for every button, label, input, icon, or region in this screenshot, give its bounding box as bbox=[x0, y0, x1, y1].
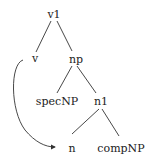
node-n: n bbox=[68, 143, 75, 154]
node-np: np bbox=[69, 54, 83, 65]
node-n1: n1 bbox=[94, 96, 108, 107]
edge-n1-compnp bbox=[102, 109, 119, 136]
node-specnp: specNP bbox=[36, 96, 78, 107]
node-v: v bbox=[32, 53, 38, 64]
edge-n1-n bbox=[72, 109, 99, 134]
node-v1: v1 bbox=[47, 9, 60, 20]
edge-np-n1 bbox=[77, 66, 96, 93]
edge-v1-np bbox=[57, 21, 72, 51]
syntax-tree-diagram: v1 v np specNP n1 n compNP bbox=[0, 0, 152, 157]
edge-v1-v bbox=[36, 21, 51, 52]
node-compnp: compNP bbox=[97, 143, 144, 154]
tree-edges bbox=[0, 0, 152, 157]
edge-np-specnp bbox=[57, 66, 72, 93]
